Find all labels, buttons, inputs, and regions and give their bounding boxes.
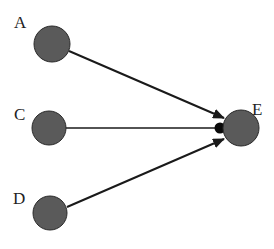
node-e: E	[223, 100, 262, 146]
graph-diagram: A C D E	[0, 0, 274, 249]
node-a-label: A	[14, 13, 27, 32]
node-c-label: C	[14, 105, 25, 124]
node-a: A	[14, 13, 70, 62]
edge-d-to-e	[67, 139, 224, 207]
node-d-label: D	[13, 189, 25, 208]
node-c: C	[14, 105, 66, 145]
node-d: D	[13, 189, 67, 230]
node-e-label: E	[252, 100, 262, 119]
edge-a-to-e	[69, 51, 224, 118]
